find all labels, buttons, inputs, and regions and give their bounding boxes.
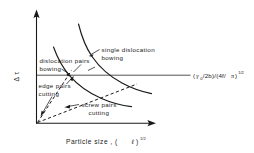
schematic-plot: single dislocation bowing dislocation pa… (0, 0, 254, 153)
figure-container: single dislocation bowing dislocation pa… (0, 0, 254, 153)
x-axis-label-group: Particle size , ( ℓ ) 1/2 (66, 136, 146, 146)
formula-middle-part: /2b)/(4f/ (203, 72, 226, 79)
curve-edge-pairs-cutting (38, 71, 72, 123)
label-screw-pairs-cutting-line1: screw pairs (82, 101, 117, 108)
leader-arrow-screw-pairs-icon (65, 105, 71, 109)
formula-exponent: 1/2 (238, 70, 244, 75)
label-single-dislocation-bowing-line1: single dislocation (102, 46, 156, 53)
leader-single-dislocation-bowing (91, 50, 100, 55)
formula-close-paren: ) (235, 72, 237, 79)
label-screw-pairs-cutting-line2: cutting (89, 109, 110, 116)
leader-dislocation-pairs-bowing (74, 65, 82, 73)
y-axis-label: Δ τ (13, 72, 20, 82)
x-axis-label-exponent: 1/2 (140, 136, 146, 141)
asymptote-formula: ( γ 0 /2b)/(4f/ π ) 1/2 (193, 70, 245, 81)
formula-gamma-symbol: γ (196, 72, 199, 79)
label-edge-pairs-cutting-line1: edge pairs (39, 82, 71, 89)
leader-dislocation-pairs-stub (88, 67, 95, 71)
label-dislocation-pairs-bowing-line2: bowing (40, 65, 62, 72)
x-axis-label-symbol: ℓ (131, 138, 135, 145)
x-axis-label-prefix: Particle size , ( (66, 138, 118, 146)
label-dislocation-pairs-bowing-line1: dislocation pairs (40, 57, 90, 64)
leader-edge-pairs-cutting (43, 97, 53, 114)
label-edge-pairs-cutting-line2: cutting (39, 90, 60, 97)
label-single-dislocation-bowing-line2: bowing (102, 54, 124, 61)
x-axis-label-suffix: ) (136, 138, 139, 146)
